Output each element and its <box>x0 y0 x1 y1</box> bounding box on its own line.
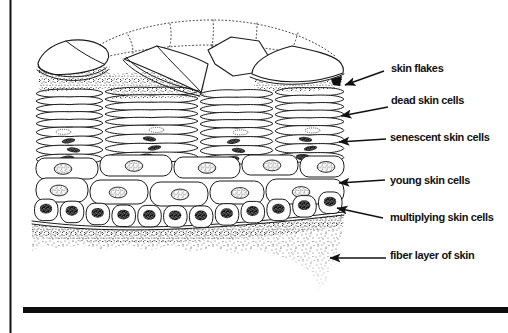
dead-skin-cell <box>200 90 273 98</box>
callout-fiber-layer-of-skin: fiber layer of skin <box>330 249 475 261</box>
callout-dead-skin-cells: dead skin cells <box>341 94 464 116</box>
callout-skin-flakes: skin flakes <box>345 62 444 85</box>
skin-diagram: skin flakes dead skin cells senescent sk… <box>0 0 508 333</box>
senescent-nucleus <box>56 129 71 134</box>
dead-skin-cell <box>105 117 198 125</box>
senescent-nucleus <box>149 127 164 132</box>
multiplying-nucleus-texture <box>91 208 103 218</box>
leader-arrow-skin-flakes <box>345 71 384 85</box>
dead-skin-cell <box>36 104 103 112</box>
dead-skin-cell <box>105 110 198 118</box>
multiplying-nucleus-texture <box>195 211 207 221</box>
label-multiplying-skin-cells: multiplying skin cells <box>390 211 494 223</box>
label-skin-flakes: skin flakes <box>391 62 444 74</box>
young-nucleus-texture <box>50 185 68 196</box>
dead-skin-cell <box>275 118 344 126</box>
fiber-layer <box>28 214 348 300</box>
callout-multiplying-skin-cells: multiplying skin cells <box>337 208 494 223</box>
dead-skin-cell <box>36 119 103 127</box>
young-nucleus-texture <box>317 162 335 173</box>
dead-skin-cell <box>200 120 273 128</box>
label-senescent-skin-cells: senescent skin cells <box>390 131 490 143</box>
dead-skin-cell <box>200 105 273 113</box>
young-nucleus-texture <box>171 189 189 200</box>
callout-young-skin-cells: young skin cells <box>339 174 470 186</box>
multiplying-nucleus-texture <box>117 210 129 220</box>
leader-arrow-dead-skin-cells <box>341 107 388 116</box>
leader-arrow-senescent-skin-cells <box>339 139 386 142</box>
young-nucleus-texture <box>231 188 249 199</box>
dead-skin-cell <box>36 112 103 120</box>
dead-skin-cell <box>36 97 103 105</box>
mesh-edge <box>212 20 213 47</box>
leader-arrow-multiplying-skin-cells <box>337 208 383 218</box>
senescent-nucleus <box>233 130 248 135</box>
young-nucleus-texture <box>54 164 72 175</box>
young-nucleus-texture <box>109 187 127 198</box>
dead-skin-cell <box>275 103 344 111</box>
senescent-nucleus <box>305 128 320 133</box>
multiplying-nucleus-texture <box>246 206 258 216</box>
label-dead-skin-cells: dead skin cells <box>391 94 464 106</box>
callout-senescent-skin-cells: senescent skin cells <box>339 131 490 143</box>
dead-skin-cell <box>275 110 344 118</box>
fiber-fade <box>28 248 348 300</box>
young-nucleus-texture <box>263 160 281 171</box>
label-fiber-layer-of-skin: fiber layer of skin <box>390 249 475 261</box>
mesh-edge <box>169 24 171 49</box>
dead-skin-cell <box>105 102 198 110</box>
multiplying-nucleus-texture <box>221 208 233 218</box>
dead-skin-cell <box>200 97 273 105</box>
multiplying-nucleus-texture <box>298 200 310 210</box>
dead-skin-cell <box>200 112 273 120</box>
leader-arrow-young-skin-cells <box>339 180 385 183</box>
multiplying-nucleus-texture <box>169 210 181 220</box>
bottom-rule-bar <box>23 307 508 313</box>
figure-page: skin flakes dead skin cells senescent sk… <box>0 0 508 333</box>
multiplying-nucleus-texture <box>272 204 284 214</box>
dead-skin-cell <box>275 95 344 103</box>
multiplying-nucleus-texture <box>66 206 78 216</box>
multiplying-nucleus-texture <box>324 197 336 207</box>
callouts: skin flakes dead skin cells senescent sk… <box>330 62 494 261</box>
label-young-skin-cells: young skin cells <box>390 174 470 186</box>
multiplying-nucleus-texture <box>143 210 155 220</box>
young-nucleus-texture <box>125 161 143 172</box>
young-nucleus-texture <box>198 163 216 174</box>
multiplying-nucleus-texture <box>40 204 52 214</box>
